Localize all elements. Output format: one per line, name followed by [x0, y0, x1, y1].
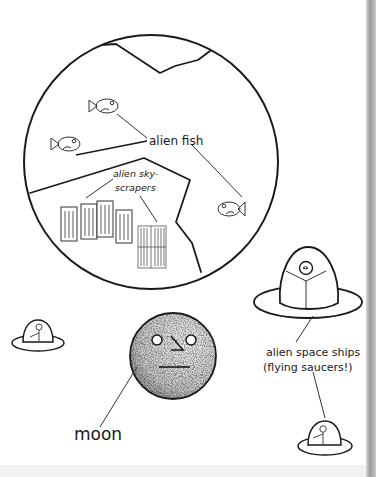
- label-space-ships-line2: (flying saucers!): [263, 361, 352, 374]
- page-edge-bottom: [0, 465, 366, 477]
- page-edge-right: [366, 0, 376, 477]
- label-alien-fish: alien fish: [149, 134, 203, 148]
- label-moon: moon: [74, 424, 122, 444]
- label-space-ships-line1: alien space ships: [266, 346, 361, 359]
- label-skyscrapers-line2: scrapers: [115, 182, 156, 193]
- diagram-labels: alien fish alien sky- scrapers alien spa…: [0, 0, 366, 465]
- label-skyscrapers-line1: alien sky-: [113, 168, 159, 179]
